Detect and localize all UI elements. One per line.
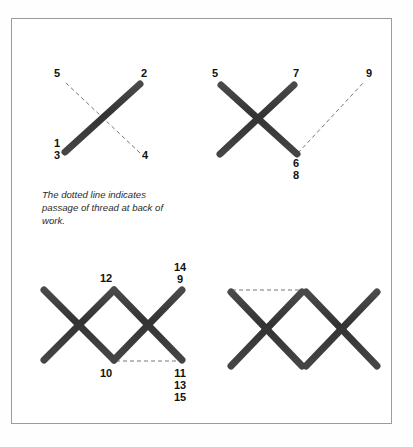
diagram-step-4-strokes — [231, 292, 377, 366]
label-13: 13 — [174, 379, 186, 391]
label-5: 5 — [212, 67, 218, 79]
diagram-step-2-dashes — [298, 82, 364, 153]
dash-6-to-9 — [298, 82, 364, 153]
label-2: 2 — [141, 67, 147, 79]
label-11: 11 — [174, 367, 186, 379]
label-3: 3 — [54, 149, 60, 161]
label-4: 4 — [142, 149, 149, 161]
label-9: 9 — [366, 67, 372, 79]
label-10: 10 — [100, 367, 112, 379]
label-15: 15 — [174, 391, 186, 403]
label-6: 6 — [293, 157, 299, 169]
diagram-step-3: 12 14 9 10 11 13 15 — [44, 261, 187, 403]
label-12: 12 — [100, 272, 112, 284]
label-8: 8 — [293, 169, 299, 181]
diagram-step-4 — [231, 290, 377, 366]
diagram-step-2: 5 7 9 6 8 — [212, 67, 372, 181]
stitch-diagram-plate: 5 2 1 3 4 5 7 9 6 8 — [0, 0, 413, 447]
label-7: 7 — [293, 67, 299, 79]
caption-line-1: The dotted line indicates — [42, 189, 146, 200]
diagram-step-3-strokes — [44, 289, 182, 361]
diagram-step-1-strokes — [65, 84, 142, 155]
caption-line-3: work. — [42, 215, 65, 226]
caption-block: The dotted line indicates passage of thr… — [41, 189, 164, 226]
label-9: 9 — [177, 273, 183, 285]
label-5: 5 — [54, 67, 60, 79]
diagram-step-2-strokes — [220, 84, 297, 155]
caption-line-2: passage of thread at back of — [41, 202, 164, 213]
diagram-step-1: 5 2 1 3 4 — [54, 67, 149, 161]
label-14: 14 — [174, 261, 187, 273]
label-1: 1 — [54, 137, 60, 149]
stitch-diagrams-canvas: 5 2 1 3 4 5 7 9 6 8 — [0, 0, 413, 447]
